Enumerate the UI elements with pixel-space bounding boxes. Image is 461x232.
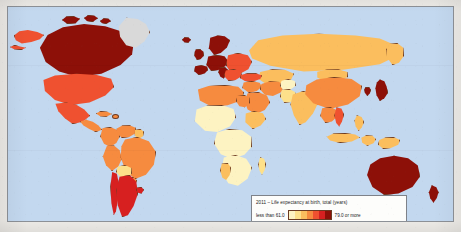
legend-scale: less than 61.0 79.0 or more — [256, 210, 402, 220]
legend-color-swatches — [288, 210, 332, 220]
scan-artifact — [8, 65, 453, 66]
region-caribbean[interactable] — [112, 114, 119, 119]
map-frame: 2011 – Life expectancy at birth, total (… — [7, 6, 454, 222]
legend-high-label: 79.0 or more — [335, 213, 361, 218]
map-legend: 2011 – Life expectancy at birth, total (… — [251, 195, 407, 222]
legend-title: 2011 – Life expectancy at birth, total (… — [256, 199, 402, 206]
scan-artifact — [8, 150, 453, 151]
legend-swatch — [325, 211, 331, 219]
world-map-figure: 2011 – Life expectancy at birth, total (… — [0, 0, 461, 232]
legend-low-label: less than 61.0 — [256, 213, 285, 218]
